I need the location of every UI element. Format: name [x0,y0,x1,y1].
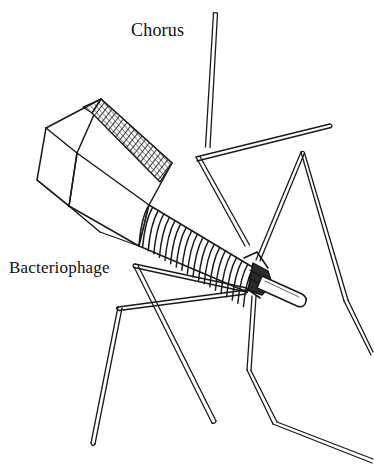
bacteriophage-drawing [0,0,374,472]
head-hatched-facet [92,99,172,182]
tail-fiber-upper-right [196,124,332,246]
head-edge-bottom [69,206,100,232]
tail-fiber-left-descending [134,266,216,424]
label-bacteriophage: Bacteriophage [9,258,110,278]
label-chorus: Chorus [131,20,184,41]
head-facet-left [37,128,69,206]
head-facet-front [69,153,149,246]
head-facet-left-inner [46,128,77,206]
head-edge-bottom-left [37,180,69,206]
tail-fiber-left-lower [91,290,246,446]
figure-canvas: Chorus Bacteriophage [0,0,374,472]
tail-core-tube [257,276,306,307]
tail-fiber-group-upper [196,13,373,355]
tail-fiber-vertical [206,13,218,148]
tail-fiber-bottom-right [344,300,373,355]
tail-fiber-group-lower [91,264,373,463]
